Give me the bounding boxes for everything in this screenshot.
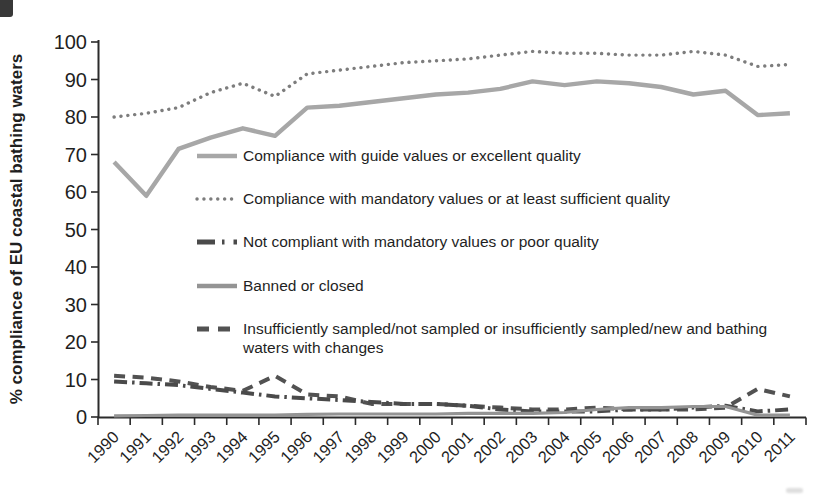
- legend: Compliance with guide values or excellen…: [197, 147, 767, 356]
- legend-label: Banned or closed: [243, 277, 364, 294]
- legend-label: Not compliant with mandatory values or p…: [243, 233, 599, 250]
- legend-item: Not compliant with mandatory values or p…: [197, 233, 599, 250]
- x-tick-label: 1994: [212, 427, 251, 466]
- y-tick-label: 90: [65, 69, 87, 91]
- x-tick-label: 1998: [341, 427, 380, 466]
- x-tick-label: 2004: [534, 427, 573, 466]
- y-tick-label: 100: [54, 31, 87, 53]
- legend-label: Insufficiently sampled/not sampled or in…: [243, 320, 767, 337]
- figure: % compliance of EU coastal bathing water…: [0, 0, 828, 498]
- legend-item: Compliance with guide values or excellen…: [197, 147, 581, 164]
- legend-label: waters with changes: [242, 339, 384, 356]
- y-tick-label: 30: [65, 294, 87, 316]
- y-tick-label: 60: [65, 181, 87, 203]
- x-tick-label: 1992: [148, 427, 187, 466]
- scan-artifact-bottom-right: [786, 488, 803, 493]
- x-tick-label: 2001: [438, 427, 477, 466]
- x-tick-label: 2005: [566, 427, 605, 466]
- x-tick-label: 1999: [373, 427, 412, 466]
- x-tick-label: 1996: [277, 427, 316, 466]
- y-tick-label: 10: [65, 369, 87, 391]
- x-tick-label: 2003: [502, 427, 541, 466]
- y-tick-label: 20: [65, 331, 87, 353]
- x-tick-label: 1991: [116, 427, 155, 466]
- legend-label: Compliance with guide values or excellen…: [243, 147, 581, 164]
- y-tick-label: 40: [65, 256, 87, 278]
- x-tick-label: 2009: [695, 427, 734, 466]
- guide-values-line: [114, 81, 790, 195]
- x-tick-label: 2006: [598, 427, 637, 466]
- y-tick-label: 0: [76, 406, 87, 428]
- x-tick-label: 1990: [84, 427, 123, 466]
- x-tick-label: 2008: [663, 427, 702, 466]
- x-tick-label: 1997: [309, 427, 348, 466]
- x-tick-label: 2010: [727, 427, 766, 466]
- scan-artifact-top-left: [0, 0, 13, 17]
- y-axis-title: % compliance of EU coastal bathing water…: [7, 54, 26, 404]
- legend-item: Insufficiently sampled/not sampled or in…: [197, 320, 767, 356]
- x-tick-label: 1995: [244, 427, 283, 466]
- line-chart: % compliance of EU coastal bathing water…: [0, 0, 828, 498]
- x-tick-label: 2000: [405, 427, 444, 466]
- banned-closed-line: [114, 407, 790, 416]
- mandatory-values-line: [114, 51, 790, 117]
- x-tick-label: 1993: [180, 427, 219, 466]
- legend-item: Compliance with mandatory values or at l…: [197, 190, 670, 207]
- legend-label: Compliance with mandatory values or at l…: [243, 190, 670, 207]
- y-tick-label: 70: [65, 144, 87, 166]
- x-tick-label: 2002: [470, 427, 509, 466]
- x-tick-label: 2011: [760, 427, 798, 465]
- legend-item: Banned or closed: [197, 277, 364, 294]
- x-tick-label: 2007: [631, 427, 670, 466]
- y-tick-label: 50: [65, 219, 87, 241]
- y-tick-label: 80: [65, 106, 87, 128]
